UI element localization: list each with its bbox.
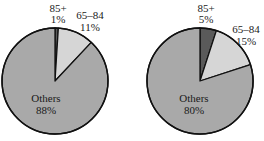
- slice-category-label: 65–84: [76, 9, 104, 21]
- pie-chart-left: 85+1%65–8411%Others88%: [2, 2, 108, 134]
- slice-value-label: 15%: [236, 35, 256, 47]
- slice-category-label: 65–84: [232, 23, 260, 35]
- slice-category-label: Others: [179, 92, 208, 104]
- slice-value-label: 88%: [36, 104, 56, 116]
- pie-charts-svg: 85+1%65–8411%Others88% 85+5%65–8415%Othe…: [0, 0, 264, 141]
- slice-value-label: 11%: [80, 21, 100, 33]
- pie-chart-right: 85+5%65–8415%Others80%: [147, 2, 260, 134]
- pie-charts-figure: 85+1%65–8411%Others88% 85+5%65–8415%Othe…: [0, 0, 264, 141]
- slice-value-label: 80%: [184, 104, 204, 116]
- slice-value-label: 5%: [199, 13, 214, 25]
- slice-category-label: Others: [31, 92, 60, 104]
- slice-value-label: 1%: [51, 13, 66, 25]
